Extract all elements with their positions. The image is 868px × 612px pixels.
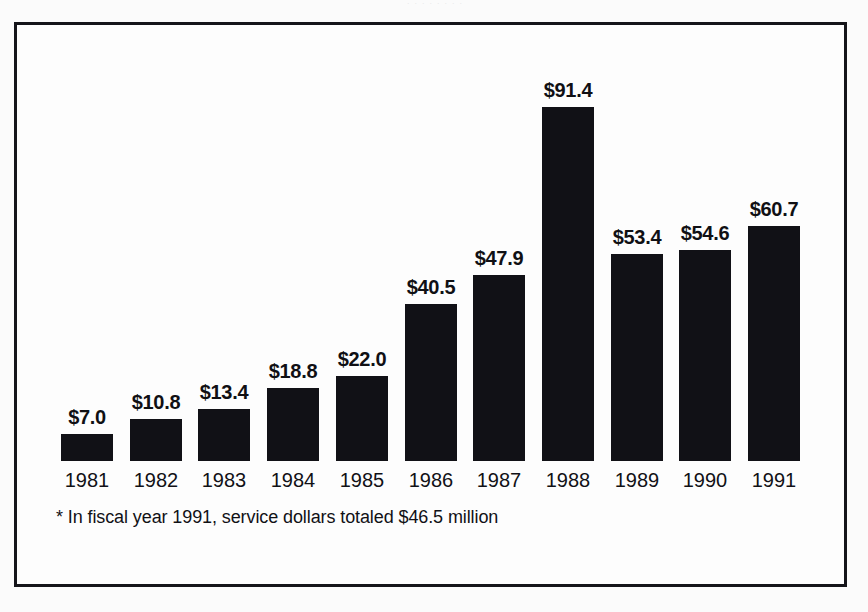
x-axis-tick-label: 1991 [734, 469, 814, 492]
x-axis-tick-label: 1987 [459, 469, 539, 492]
bar-value-label: $18.8 [255, 360, 331, 383]
chart-footnote: * In fiscal year 1991, service dollars t… [56, 507, 498, 528]
bar-1988[interactable] [542, 107, 594, 461]
bar-1982[interactable] [130, 419, 182, 461]
bar-1983[interactable] [198, 409, 250, 461]
bar-1989[interactable] [611, 254, 663, 461]
bar-value-label: $47.9 [461, 247, 537, 270]
bar-1984[interactable] [267, 388, 319, 461]
bar-value-label: $10.8 [118, 391, 194, 414]
bar-1991[interactable] [748, 226, 800, 461]
bar-1985[interactable] [336, 376, 388, 461]
bar-value-label: $7.0 [49, 406, 125, 429]
bar-chart-plot-area: $7.01981$10.81982$13.41983$18.81984$22.0… [17, 25, 850, 590]
bar-value-label: $13.4 [186, 381, 262, 404]
x-axis-tick-label: 1990 [665, 469, 745, 492]
scan-top-artifact: · · · · · · · · [200, 0, 670, 7]
bar-1987[interactable] [473, 275, 525, 461]
bar-value-label: $53.4 [599, 226, 675, 249]
scanned-page: · · · · · · · · $7.01981$10.81982$13.419… [0, 0, 868, 612]
x-axis-tick-label: 1981 [47, 469, 127, 492]
bar-1986[interactable] [405, 304, 457, 461]
bar-1981[interactable] [61, 434, 113, 461]
chart-frame: $7.01981$10.81982$13.41983$18.81984$22.0… [14, 22, 847, 587]
bar-value-label: $60.7 [736, 198, 812, 221]
x-axis-tick-label: 1984 [253, 469, 333, 492]
bar-1990[interactable] [679, 250, 731, 461]
bar-value-label: $40.5 [393, 276, 469, 299]
bar-value-label: $91.4 [530, 79, 606, 102]
x-axis-tick-label: 1983 [184, 469, 264, 492]
x-axis-tick-label: 1988 [528, 469, 608, 492]
bar-value-label: $22.0 [324, 348, 400, 371]
x-axis-tick-label: 1985 [322, 469, 402, 492]
bar-value-label: $54.6 [667, 222, 743, 245]
